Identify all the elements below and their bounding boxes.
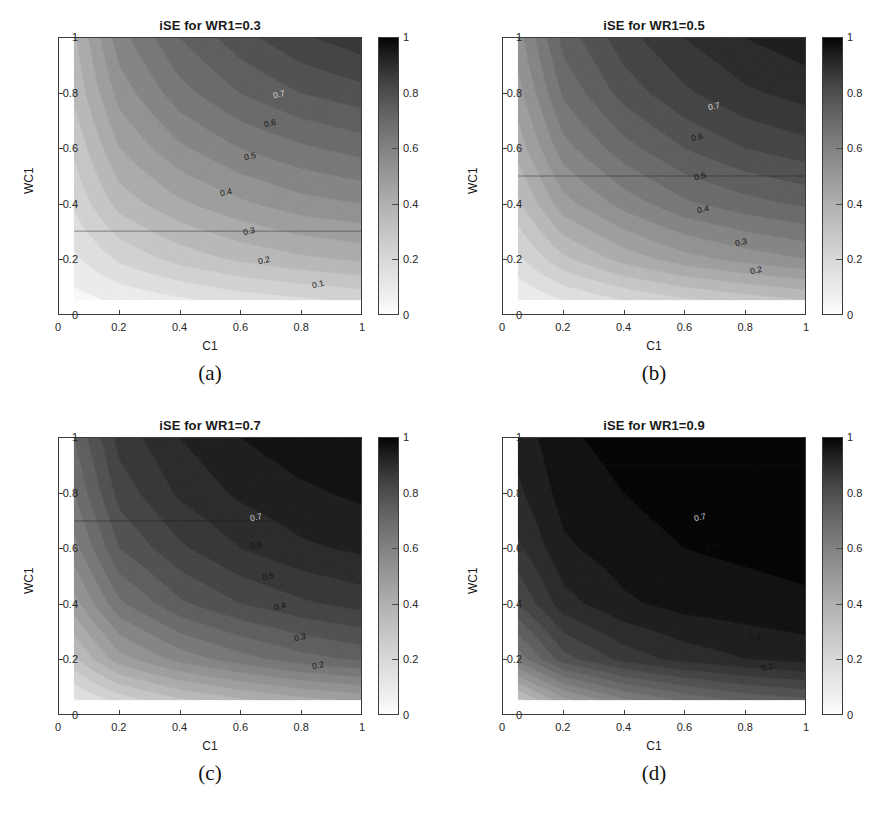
x-axis-tick-mark <box>240 310 241 315</box>
x-axis-label: C1 <box>58 339 362 353</box>
colorbar-tick-label: 1 <box>403 31 409 43</box>
colorbar-tick-label: 0.2 <box>847 653 862 665</box>
y-axis-tick-mark <box>58 37 63 38</box>
colorbar-tick-label: 0.4 <box>403 198 418 210</box>
plot-area: 0.20.30.40.50.60.7 <box>502 437 806 715</box>
x-axis-tick-label: 1 <box>786 721 826 733</box>
x-axis-tick-label: 0.2 <box>99 721 139 733</box>
x-axis-tick-label: 0.8 <box>725 721 765 733</box>
colorbar-tick-mark <box>392 604 398 605</box>
colorbar <box>378 437 399 715</box>
colorbar-tick-label: 0.4 <box>847 598 862 610</box>
panel-caption: (d) <box>502 761 806 786</box>
colorbar-tick-mark <box>836 548 842 549</box>
colorbar-tick-label: 1 <box>847 31 853 43</box>
panel-d: iSE for WR1=0.90.20.30.40.50.60.700.20.4… <box>444 400 888 815</box>
colorbar-tick-mark <box>836 148 842 149</box>
contour-label: 0.7 <box>272 87 286 99</box>
contour-label: 0.6 <box>690 131 704 143</box>
y-axis-tick-mark <box>502 548 507 549</box>
y-axis-tick-mark <box>502 259 507 260</box>
plot-area: 0.20.30.40.50.60.7 <box>502 37 806 315</box>
y-axis-tick-mark <box>502 204 507 205</box>
colorbar-tick-mark <box>836 259 842 260</box>
x-axis-tick-mark <box>745 710 746 715</box>
x-axis-tick-mark <box>684 310 685 315</box>
colorbar-tick-label: 0 <box>847 309 853 321</box>
x-axis-tick-label: 1 <box>342 721 382 733</box>
x-axis-tick-mark <box>119 710 120 715</box>
panel-title: iSE for WR1=0.5 <box>502 18 806 33</box>
y-axis-tick-mark <box>502 148 507 149</box>
y-axis-tick-mark <box>58 204 63 205</box>
x-axis-tick-mark <box>301 310 302 315</box>
figure-contour-grid: iSE for WR1=0.30.10.20.30.40.50.60.700.2… <box>0 0 888 815</box>
contour-label: 0.3 <box>748 631 762 643</box>
x-axis-tick-label: 1 <box>786 321 826 333</box>
colorbar <box>822 437 843 715</box>
panel-caption: (b) <box>502 361 806 386</box>
x-axis-tick-mark <box>684 710 685 715</box>
contour-label: 0.3 <box>293 631 307 643</box>
colorbar-tick-mark <box>392 204 398 205</box>
contour-label: 0.6 <box>263 117 277 129</box>
colorbar-tick-label: 1 <box>403 431 409 443</box>
y-axis-tick-mark <box>58 604 63 605</box>
colorbar-tick-label: 0 <box>403 309 409 321</box>
panel-c: iSE for WR1=0.70.20.30.40.50.60.700.20.4… <box>0 400 444 815</box>
x-axis-tick-label: 0.6 <box>220 721 260 733</box>
x-axis-tick-label: 0.2 <box>543 721 583 733</box>
x-axis-tick-mark <box>563 310 564 315</box>
y-axis-tick-mark <box>58 93 63 94</box>
x-axis-tick-label: 0 <box>38 721 78 733</box>
y-axis-tick-mark <box>502 437 507 438</box>
contour-surface <box>503 438 805 714</box>
colorbar-tick-label: 0 <box>847 709 853 721</box>
panel-caption: (c) <box>58 761 362 786</box>
x-axis-label: C1 <box>502 339 806 353</box>
colorbar-tick-mark <box>836 493 842 494</box>
plot-area: 0.20.30.40.50.60.7 <box>58 437 362 715</box>
contour-surface <box>59 438 361 714</box>
colorbar-tick-label: 0.2 <box>403 653 418 665</box>
x-axis-tick-label: 0.2 <box>543 321 583 333</box>
colorbar-tick-mark <box>836 204 842 205</box>
plot-area: 0.10.20.30.40.50.60.7 <box>58 37 362 315</box>
x-axis-tick-mark <box>745 310 746 315</box>
colorbar-tick-label: 0.4 <box>847 198 862 210</box>
y-axis-tick-mark <box>58 437 63 438</box>
x-axis-tick-label: 0.2 <box>99 321 139 333</box>
colorbar-tick-label: 0 <box>403 709 409 721</box>
colorbar-tick-mark <box>392 93 398 94</box>
x-axis-tick-label: 0.8 <box>281 321 321 333</box>
colorbar-tick-mark <box>392 259 398 260</box>
colorbar-tick-label: 0.6 <box>403 542 418 554</box>
colorbar-tick-label: 0.8 <box>403 487 418 499</box>
y-axis-label: WC1 <box>466 167 480 194</box>
x-axis-tick-mark <box>240 710 241 715</box>
y-axis-label: WC1 <box>22 167 36 194</box>
x-axis-tick-mark <box>624 310 625 315</box>
x-axis-tick-label: 0 <box>482 721 522 733</box>
y-axis-tick-mark <box>58 548 63 549</box>
panel-title: iSE for WR1=0.9 <box>502 418 806 433</box>
y-axis-tick-mark <box>58 148 63 149</box>
colorbar-tick-mark <box>836 93 842 94</box>
y-axis-tick-mark <box>502 493 507 494</box>
x-axis-tick-label: 0.8 <box>281 721 321 733</box>
contour-surface <box>59 38 361 314</box>
colorbar-tick-label: 0.8 <box>847 87 862 99</box>
y-axis-tick-mark <box>502 604 507 605</box>
y-axis-tick-label: 0 <box>38 709 78 721</box>
y-axis-tick-mark <box>58 259 63 260</box>
x-axis-label: C1 <box>58 739 362 753</box>
colorbar-tick-label: 0.6 <box>403 142 418 154</box>
colorbar-tick-mark <box>392 548 398 549</box>
colorbar-tick-label: 0.4 <box>403 598 418 610</box>
y-axis-label: WC1 <box>466 567 480 594</box>
colorbar-tick-label: 0.8 <box>403 87 418 99</box>
x-axis-tick-label: 0 <box>38 321 78 333</box>
contour-label: 0.5 <box>693 169 707 181</box>
colorbar-tick-mark <box>836 604 842 605</box>
x-axis-tick-label: 0 <box>482 321 522 333</box>
